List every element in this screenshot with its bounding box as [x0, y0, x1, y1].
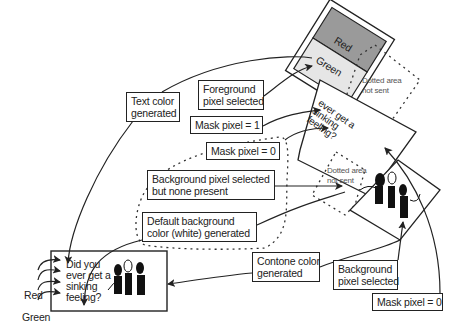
foreground-pixel-selected-box: Foreground pixel selected	[198, 80, 264, 110]
text-color-generated-box: Text color generated	[126, 92, 180, 122]
dotted-area-mid-label: Dotted area not sent	[327, 166, 367, 186]
mask-pixel-0-mid-box: Mask pixel = 0	[206, 142, 280, 160]
mask-pixel-0-bottom-box: Mask pixel = 0	[372, 293, 443, 311]
background-none-present-box: Background pixel selected but none prese…	[147, 170, 275, 200]
default-background-box: Default background color (white) generat…	[142, 212, 257, 242]
mask-pixel-1-box: Mask pixel = 1	[190, 116, 263, 134]
contone-color-generated-box: Contone color generated	[252, 252, 320, 282]
output-document-text: Did you ever get a sinking feeling?	[66, 259, 111, 303]
legend-green-label: Green	[22, 311, 50, 323]
dotted-area-top-label: Dotted area not sent	[362, 76, 402, 96]
background-pixel-selected-box: Background pixel selected	[333, 260, 398, 290]
legend-red-label: Red	[24, 289, 43, 301]
